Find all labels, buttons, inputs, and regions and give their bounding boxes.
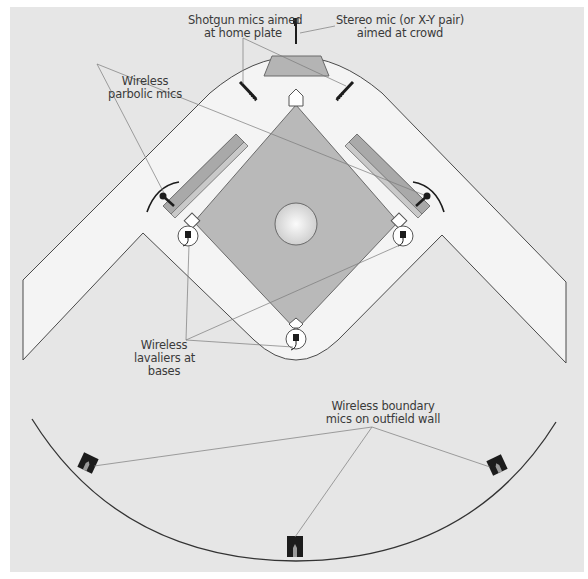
boundary-mic-center <box>287 536 303 557</box>
label-stereo-line2: aimed at crowd <box>330 27 470 40</box>
label-lavaliers-line3: bases <box>134 365 194 378</box>
label-boundary-line2: mics on outfield wall <box>318 413 448 426</box>
field-diagram <box>0 0 588 579</box>
label-boundary-mics: Wireless boundary mics on outfield wall <box>318 400 448 426</box>
label-parabolic-line2: parbolic mics <box>105 88 185 101</box>
lavalier-mic-third <box>178 226 198 246</box>
label-parabolic-mics: Wireless parbolic mics <box>105 75 185 101</box>
backstop-trapezoid <box>264 56 329 76</box>
label-lavaliers: Wireless lavaliers at bases <box>134 339 194 378</box>
lavalier-mic-first <box>393 226 413 246</box>
label-shotgun-line2: at home plate <box>188 27 298 40</box>
label-stereo-mic: Stereo mic (or X-Y pair) aimed at crowd <box>330 14 470 40</box>
pitchers-mound <box>275 203 317 245</box>
label-shotgun-mics: Shotgun mics aimed at home plate <box>188 14 298 40</box>
